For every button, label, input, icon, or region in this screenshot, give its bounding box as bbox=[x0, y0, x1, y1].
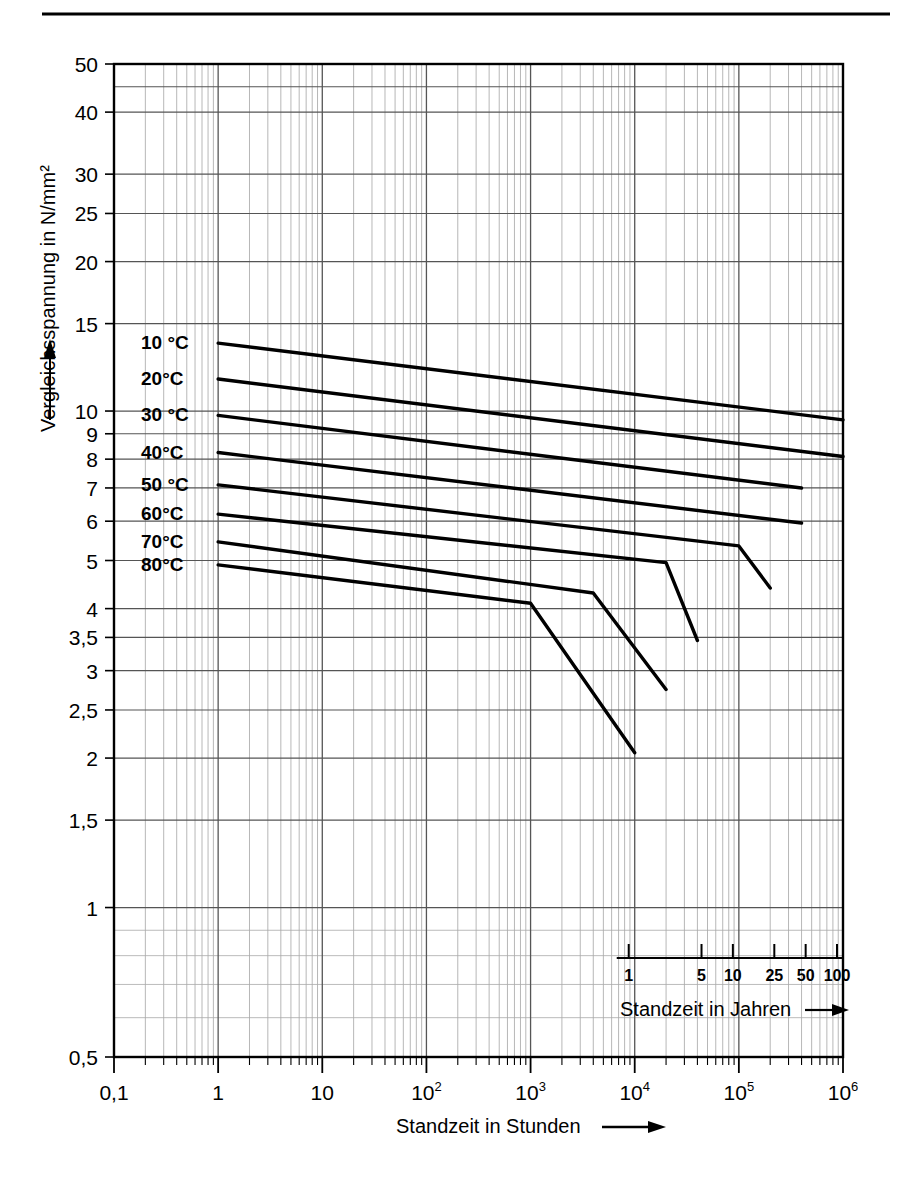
years-tick-label: 25 bbox=[765, 967, 783, 984]
series-label-70c: 70°C bbox=[141, 531, 184, 552]
series-label-10c: 10 °C bbox=[141, 332, 189, 353]
y-tick-label: 25 bbox=[75, 202, 98, 225]
y-tick-label: 30 bbox=[75, 163, 98, 186]
x-tick-label: 10 bbox=[311, 1081, 334, 1104]
y-axis-title-group: Vergleichsspannung in N/mm² bbox=[37, 165, 59, 432]
y-tick-label: 50 bbox=[75, 53, 98, 76]
stress-lifetime-chart: 0,1110102103104105106 0,511,522,533,5456… bbox=[0, 0, 911, 1185]
y-tick-label: 20 bbox=[75, 251, 98, 274]
y-tick-label: 10 bbox=[75, 400, 98, 423]
series-label-80c: 80°C bbox=[141, 554, 184, 575]
x-tick-label: 0,1 bbox=[99, 1081, 128, 1104]
years-tick-label: 100 bbox=[824, 967, 851, 984]
series-label-40c: 40°C bbox=[141, 442, 184, 463]
x-tick-label: 1 bbox=[212, 1081, 224, 1104]
y-axis-title: Vergleichsspannung in N/mm² bbox=[37, 165, 59, 432]
y-tick-label: 3 bbox=[86, 660, 98, 683]
y-tick-label: 2 bbox=[86, 747, 98, 770]
years-tick-label: 1 bbox=[624, 967, 633, 984]
y-axis-ticks bbox=[105, 64, 114, 1057]
y-tick-label: 8 bbox=[86, 448, 98, 471]
series-label-60c: 60°C bbox=[141, 503, 184, 524]
series-label-20c: 20°C bbox=[141, 368, 184, 389]
y-tick-label: 9 bbox=[86, 423, 98, 446]
years-tick-label: 5 bbox=[697, 967, 706, 984]
x-axis-title: Standzeit in Stunden bbox=[396, 1115, 581, 1137]
y-tick-label: 1,5 bbox=[69, 809, 98, 832]
y-tick-label: 5 bbox=[86, 550, 98, 573]
y-tick-label: 15 bbox=[75, 313, 98, 336]
y-tick-label: 2,5 bbox=[69, 699, 98, 722]
series-temperature-labels: 10 °C20°C30 °C40°C50 °C60°C70°C80°C bbox=[141, 332, 189, 575]
chart-page: 0,1110102103104105106 0,511,522,533,5456… bbox=[0, 0, 911, 1185]
years-tick-label: 10 bbox=[724, 967, 742, 984]
y-tick-label: 4 bbox=[86, 598, 98, 621]
grid-major-lines bbox=[114, 64, 843, 1057]
series-label-30c: 30 °C bbox=[141, 404, 189, 425]
series-label-50c: 50 °C bbox=[141, 474, 189, 495]
y-tick-label: 3,5 bbox=[69, 626, 98, 649]
y-tick-label: 1 bbox=[86, 897, 98, 920]
y-tick-label: 40 bbox=[75, 101, 98, 124]
y-tick-label: 0,5 bbox=[69, 1046, 98, 1069]
years-axis-title: Standzeit in Jahren bbox=[620, 998, 791, 1020]
y-tick-label: 7 bbox=[86, 477, 98, 500]
years-tick-label: 50 bbox=[797, 967, 815, 984]
y-tick-label: 6 bbox=[86, 510, 98, 533]
